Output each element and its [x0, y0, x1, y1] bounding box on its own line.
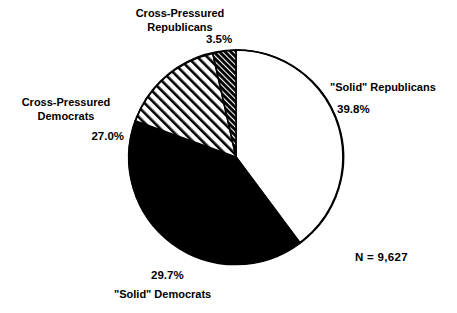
label-cross-pressured-democrats-line2: Democrats: [8, 110, 124, 124]
sample-size-note: N = 9,627: [355, 251, 408, 264]
value-solid-democrats: 29.7%: [151, 269, 184, 282]
label-cross-pressured-republicans: Cross-Pressured Republicans: [100, 7, 260, 34]
label-cross-pressured-democrats: Cross-Pressured Democrats: [8, 96, 124, 123]
label-cross-pressured-republicans-line2: Republicans: [100, 21, 260, 35]
value-cross-pressured-republicans: 3.5%: [206, 33, 232, 46]
label-solid-republicans: "Solid" Republicans: [330, 81, 436, 94]
label-cross-pressured-republicans-line1: Cross-Pressured: [136, 7, 225, 19]
pie-chart-figure: Cross-Pressured Republicans 3.5% Cross-P…: [0, 0, 457, 313]
value-solid-republicans: 39.8%: [337, 103, 370, 116]
label-solid-democrats: "Solid" Democrats: [114, 288, 211, 301]
value-cross-pressured-democrats: 27.0%: [70, 130, 124, 143]
label-cross-pressured-democrats-line1: Cross-Pressured: [22, 96, 111, 108]
pie-chart-graphic: [0, 0, 457, 313]
